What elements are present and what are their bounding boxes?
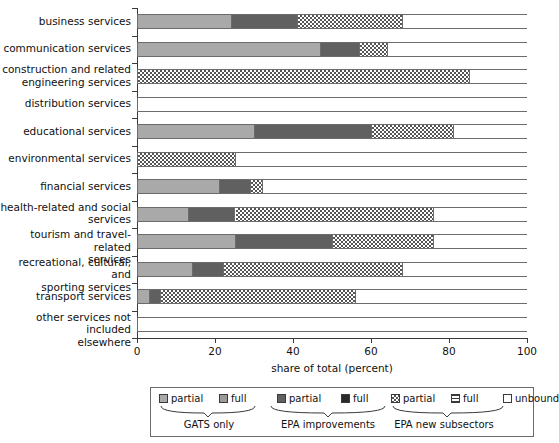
x-tick-label: 20 [195, 345, 235, 357]
y-tick [132, 311, 137, 312]
bar-segment-unbound [138, 318, 528, 331]
new-full-swatch-icon [451, 394, 460, 403]
category-label-line: environmental services [0, 152, 131, 165]
gats-partial-swatch-icon [159, 394, 168, 403]
category-label-line: health-related and social [0, 201, 131, 214]
x-tick-label: 80 [429, 345, 469, 357]
legend-item-new-partial[interactable]: partial [391, 393, 435, 404]
bar-segment-unbound [403, 263, 528, 276]
bar-track [137, 262, 527, 277]
bar-track [137, 234, 527, 249]
x-tick-label: 60 [351, 345, 391, 357]
bar-track [137, 97, 527, 112]
bar-segment-unbound [470, 70, 529, 83]
legend-group-label: EPA new subsectors [383, 419, 505, 430]
legend-item-epa-partial[interactable]: partial [277, 393, 321, 404]
bar-segment-epa-partial [232, 15, 298, 28]
bar-row [137, 262, 527, 277]
bar-segment-epa-partial [150, 290, 162, 303]
bar-track [137, 124, 527, 139]
bar-segment-epa-partial [193, 263, 224, 276]
category-label: business services [0, 15, 131, 28]
bar-segment-epa-partial [236, 235, 334, 248]
category-label-line: services [0, 213, 131, 226]
x-tick [215, 338, 216, 343]
category-label-line: tourism and travel-related [0, 228, 131, 253]
legend-item-gats-full[interactable]: full [219, 393, 246, 404]
bar-row [137, 97, 527, 112]
bar-row [137, 317, 527, 332]
bar-segment-new-partial [138, 153, 236, 166]
bar-row [137, 207, 527, 222]
legend-item-label: full [231, 393, 246, 404]
bar-segment-new-partial [161, 290, 356, 303]
bar-segment-unbound [388, 43, 528, 56]
legend-item-gats-partial[interactable]: partial [159, 393, 203, 404]
category-label-line: construction and related [0, 63, 131, 76]
category-label: educational services [0, 125, 131, 138]
legend-group-label: GATS only [161, 419, 257, 430]
bar-segment-gats-partial [138, 15, 232, 28]
category-label-line: other services not included [0, 311, 131, 336]
y-tick [132, 173, 137, 174]
legend-item-label: full [463, 393, 478, 404]
x-tick-label: 40 [273, 345, 313, 357]
bar-segment-unbound [434, 235, 528, 248]
category-label-line: transport services [0, 290, 131, 303]
x-tick [371, 338, 372, 343]
bar-row [137, 14, 527, 29]
y-tick [132, 256, 137, 257]
category-label: health-related and socialservices [0, 201, 131, 226]
bar-track [137, 207, 527, 222]
x-axis-title: share of total (percent) [137, 362, 527, 374]
bar-track [137, 14, 527, 29]
bar-segment-unbound [263, 180, 528, 193]
bar-segment-new-partial [298, 15, 403, 28]
bar-segment-gats-partial [138, 125, 255, 138]
legend-item-label: partial [403, 393, 435, 404]
category-label-line: recreational, cultural, and [0, 256, 131, 281]
category-label-line: financial services [0, 180, 131, 193]
legend-item-epa-full[interactable]: full [341, 393, 368, 404]
x-tick [293, 338, 294, 343]
legend-item-label: full [353, 393, 368, 404]
x-tick-label: 0 [117, 345, 157, 357]
bar-track [137, 69, 527, 84]
category-label-line: educational services [0, 125, 131, 138]
bar-segment-epa-partial [220, 180, 251, 193]
bar-segment-gats-partial [138, 208, 189, 221]
category-label: environmental services [0, 152, 131, 165]
y-tick [132, 8, 137, 9]
category-label-line: distribution services [0, 97, 131, 110]
bar-segment-unbound [236, 153, 529, 166]
bar-segment-gats-partial [138, 263, 193, 276]
category-label: transport services [0, 290, 131, 303]
bar-segment-unbound [434, 208, 528, 221]
legend-item-new-full[interactable]: full [451, 393, 478, 404]
legend-group-label: EPA improvements [269, 419, 387, 430]
bar-segment-new-partial [224, 263, 403, 276]
legend-item-label: partial [289, 393, 321, 404]
category-label: financial services [0, 180, 131, 193]
bar-segment-new-partial [138, 70, 470, 83]
category-label: recreational, cultural, andsporting serv… [0, 256, 131, 294]
bar-segment-gats-partial [138, 235, 236, 248]
bar-segment-gats-partial [138, 290, 150, 303]
bar-segment-gats-partial [138, 180, 220, 193]
epa-full-swatch-icon [341, 394, 350, 403]
bar-row [137, 179, 527, 194]
bar-segment-new-partial [360, 43, 387, 56]
y-tick [132, 228, 137, 229]
category-label: communication services [0, 42, 131, 55]
legend-item-unbound[interactable]: unbound [503, 393, 559, 404]
bar-segment-new-partial [251, 180, 263, 193]
bar-segment-new-partial [333, 235, 434, 248]
category-label-line: communication services [0, 42, 131, 55]
stacked-bar-chart: business servicescommunication servicesc… [0, 0, 546, 380]
unbound-swatch-icon [503, 394, 512, 403]
bar-segment-gats-partial [138, 43, 321, 56]
bar-row [137, 152, 527, 167]
bar-segment-epa-partial [189, 208, 236, 221]
bar-segment-epa-partial [321, 43, 360, 56]
bar-segment-unbound [454, 125, 528, 138]
